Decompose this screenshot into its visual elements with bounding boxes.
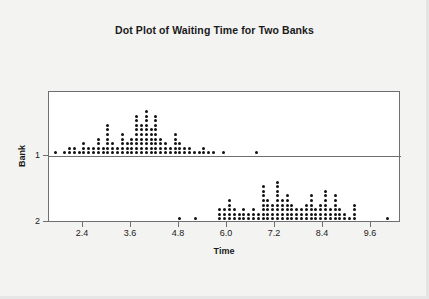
x-axis-title: Time	[48, 246, 400, 256]
data-dot	[159, 142, 162, 145]
data-dot	[183, 151, 186, 154]
data-dot	[73, 147, 76, 150]
y-axis-tick-label: 1	[35, 150, 40, 160]
data-dot	[233, 217, 236, 220]
data-dot	[154, 142, 157, 145]
data-dot	[324, 199, 327, 202]
x-axis-tick	[226, 222, 227, 227]
x-axis-tick	[82, 222, 83, 227]
data-dot	[63, 151, 66, 154]
data-dot	[290, 217, 293, 220]
data-dot	[262, 185, 265, 188]
dot-column	[242, 208, 246, 222]
data-dot	[140, 124, 143, 127]
dot-column	[87, 147, 91, 156]
data-dot	[257, 213, 260, 216]
data-dot	[262, 213, 265, 216]
data-dot	[252, 208, 255, 211]
data-dot	[154, 128, 157, 131]
y-axis-tick-label: 2	[35, 216, 40, 226]
data-dot	[353, 204, 356, 207]
dot-column	[115, 147, 119, 156]
data-dot	[319, 204, 322, 207]
data-dot	[262, 208, 265, 211]
dot-column	[101, 147, 105, 156]
data-dot	[140, 147, 143, 150]
data-dot	[290, 204, 293, 207]
data-dot	[106, 138, 109, 141]
data-dot	[324, 190, 327, 193]
data-dot	[102, 147, 105, 150]
dot-column	[319, 204, 323, 222]
data-dot	[169, 151, 172, 154]
data-dot	[54, 151, 57, 154]
data-dot	[150, 142, 153, 145]
data-dot	[329, 217, 332, 220]
data-dot	[276, 217, 279, 220]
data-dot	[68, 147, 71, 150]
data-dot	[271, 217, 274, 220]
data-dot	[228, 213, 231, 216]
dot-column	[72, 147, 76, 156]
data-dot	[228, 217, 231, 220]
data-dot	[198, 151, 201, 154]
y-axis-tick	[43, 221, 48, 222]
data-dot	[82, 147, 85, 150]
data-dot	[188, 147, 191, 150]
data-dot	[97, 147, 100, 150]
data-dot	[286, 217, 289, 220]
data-dot	[135, 119, 138, 122]
data-dot	[97, 151, 100, 154]
dot-column	[91, 147, 95, 156]
data-dot	[121, 151, 124, 154]
data-dot	[286, 204, 289, 207]
data-dot	[73, 151, 76, 154]
data-dot	[174, 147, 177, 150]
dot-column	[67, 147, 71, 156]
data-dot	[305, 204, 308, 207]
data-dot	[242, 213, 245, 216]
data-dot	[271, 208, 274, 211]
data-dot	[106, 147, 109, 150]
data-dot	[295, 213, 298, 216]
data-dot	[334, 208, 337, 211]
dot-column	[120, 133, 124, 156]
dot-column	[237, 213, 241, 222]
data-dot	[218, 213, 221, 216]
data-dot	[188, 151, 191, 154]
data-dot	[228, 199, 231, 202]
dot-column	[280, 199, 284, 222]
dot-column	[290, 204, 294, 222]
data-dot	[111, 151, 114, 154]
data-dot	[223, 213, 226, 216]
plot-area	[48, 91, 400, 222]
data-dot	[145, 119, 148, 122]
data-dot	[135, 133, 138, 136]
data-dot	[324, 194, 327, 197]
data-dot	[314, 217, 317, 220]
data-dot	[212, 151, 215, 154]
data-dot	[174, 133, 177, 136]
data-dot	[334, 217, 337, 220]
data-dot	[159, 138, 162, 141]
data-dot	[126, 151, 129, 154]
data-dot	[178, 142, 181, 145]
dot-column	[328, 208, 332, 222]
data-dot	[150, 128, 153, 131]
data-dot	[145, 128, 148, 131]
data-dot	[276, 181, 279, 184]
data-dot	[238, 213, 241, 216]
data-dot	[154, 151, 157, 154]
data-dot	[154, 133, 157, 136]
dot-column	[149, 128, 153, 156]
data-dot	[242, 217, 245, 220]
data-dot	[194, 217, 197, 220]
dot-column	[130, 138, 134, 156]
x-axis-tick-label: 3.6	[124, 228, 137, 238]
data-dot	[111, 147, 114, 150]
data-dot	[324, 217, 327, 220]
data-dot	[154, 119, 157, 122]
dot-column	[139, 124, 143, 156]
data-dot	[145, 151, 148, 154]
data-dot	[140, 138, 143, 141]
